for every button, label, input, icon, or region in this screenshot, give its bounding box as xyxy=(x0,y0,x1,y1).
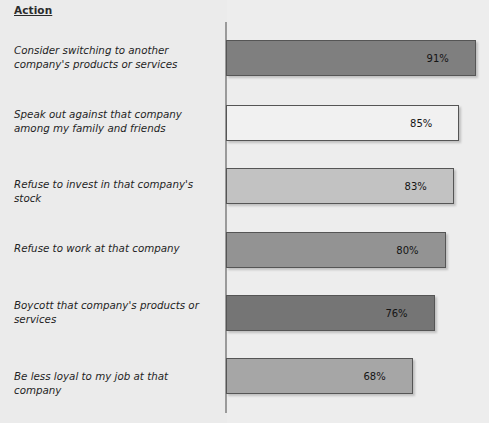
bar-4: 80% xyxy=(226,232,446,268)
category-label-2: Speak out against that company among my … xyxy=(14,108,214,135)
bar-2: 85% xyxy=(226,105,459,141)
bar-chart: Action Consider switching to another com… xyxy=(0,0,489,423)
bar-value-2: 85% xyxy=(410,118,432,129)
bar-value-5: 76% xyxy=(385,308,407,319)
category-axis-title: Action xyxy=(14,4,52,16)
bar-value-4: 80% xyxy=(396,245,418,256)
bar-5: 76% xyxy=(226,295,435,331)
category-label-1: Consider switching to another company's … xyxy=(14,44,214,71)
bar-value-3: 83% xyxy=(405,181,427,192)
bar-3: 83% xyxy=(226,168,454,204)
category-label-4: Refuse to work at that company xyxy=(14,242,214,256)
bar-value-6: 68% xyxy=(363,371,385,382)
value-axis-line xyxy=(225,22,227,413)
category-label-6: Be less loyal to my job at that company xyxy=(14,370,214,397)
category-label-3: Refuse to invest in that company's stock xyxy=(14,178,214,205)
bar-6: 68% xyxy=(226,358,413,394)
bar-value-1: 91% xyxy=(427,53,449,64)
category-label-5: Boycott that company's products or servi… xyxy=(14,299,214,326)
bar-1: 91% xyxy=(226,40,476,76)
